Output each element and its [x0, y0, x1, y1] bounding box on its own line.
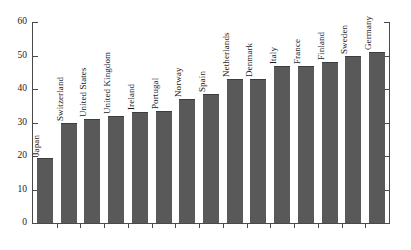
bar-slot: Germany [365, 22, 389, 223]
y-tick-label: 20 [18, 151, 28, 161]
bar[interactable]: United States [84, 119, 100, 223]
y-axis-right-spine [389, 22, 390, 224]
y-tick-label: 10 [18, 185, 28, 195]
bar-category-label: Italy [269, 47, 278, 64]
bar-slot: Japan [33, 22, 57, 223]
plot-area: 0102030405060 JapanSwitzerlandUnited Sta… [32, 22, 390, 224]
x-tick-mark [80, 223, 81, 228]
bar-slot: Ireland [128, 22, 152, 223]
x-tick-mark [104, 223, 105, 228]
bar[interactable]: Spain [203, 94, 219, 223]
y-tick-mark-right [384, 223, 389, 224]
x-tick-mark [270, 223, 271, 228]
y-tick-label: 50 [18, 51, 28, 61]
x-tick-mark [57, 223, 58, 228]
bar-slot: United States [80, 22, 104, 223]
y-tick-label: 40 [18, 84, 28, 94]
bar-series: JapanSwitzerlandUnited StatesUnited King… [33, 22, 389, 223]
bar-slot: Norway [175, 22, 199, 223]
bar[interactable]: Portugal [156, 111, 172, 223]
bar-category-label: Japan [32, 135, 41, 156]
bar[interactable]: Switzerland [61, 123, 77, 224]
bar-category-label: Finland [317, 32, 326, 60]
bar[interactable]: Germany [369, 52, 385, 223]
bar-slot: United Kingdom [104, 22, 128, 223]
bar-category-label: Netherlands [222, 32, 231, 77]
x-tick-mark [128, 223, 129, 228]
x-tick-mark [199, 223, 200, 228]
bar-category-label: Sweden [340, 24, 349, 53]
x-tick-mark [318, 223, 319, 228]
bar-category-label: Ireland [127, 84, 136, 110]
x-tick-mark [294, 223, 295, 228]
bar[interactable]: France [298, 66, 314, 223]
bar-slot: Switzerland [57, 22, 81, 223]
bar[interactable]: Italy [274, 66, 290, 223]
bar-category-label: United States [79, 68, 88, 118]
bar[interactable]: Denmark [250, 79, 266, 223]
x-tick-mark [342, 223, 343, 228]
bar[interactable]: United Kingdom [108, 116, 124, 223]
bar-category-label: Switzerland [56, 76, 65, 120]
bar[interactable]: Ireland [132, 112, 148, 223]
bar-slot: Spain [199, 22, 223, 223]
y-tick-label: 0 [22, 218, 27, 228]
bar-slot: France [294, 22, 318, 223]
x-tick-mark [175, 223, 176, 228]
bar[interactable]: Netherlands [227, 79, 243, 223]
y-tick-mark [33, 223, 38, 224]
bar-slot: Sweden [342, 22, 366, 223]
bar-category-label: Norway [174, 67, 183, 97]
bar[interactable]: Finland [322, 62, 338, 223]
bar-slot: Portugal [152, 22, 176, 223]
y-tick-label: 60 [18, 17, 28, 27]
x-axis-baseline [32, 223, 390, 224]
bar[interactable]: Sweden [345, 56, 361, 224]
bar-category-label: United Kingdom [103, 52, 112, 114]
bar-category-label: Portugal [151, 77, 160, 108]
bar-category-label: Germany [364, 16, 373, 50]
bar-category-label: Denmark [245, 43, 254, 77]
x-tick-mark [223, 223, 224, 228]
x-tick-mark [247, 223, 248, 228]
x-tick-mark [365, 223, 366, 228]
bar-category-label: France [293, 38, 302, 63]
y-tick-label: 30 [18, 118, 28, 128]
bar[interactable]: Japan [37, 158, 53, 223]
bar-slot: Denmark [247, 22, 271, 223]
bar[interactable]: Norway [179, 99, 195, 223]
bar-category-label: Spain [198, 71, 207, 92]
bar-slot: Finland [318, 22, 342, 223]
bar-chart: 0102030405060 JapanSwitzerlandUnited Sta… [0, 0, 411, 250]
bar-slot: Italy [270, 22, 294, 223]
x-tick-mark [152, 223, 153, 228]
